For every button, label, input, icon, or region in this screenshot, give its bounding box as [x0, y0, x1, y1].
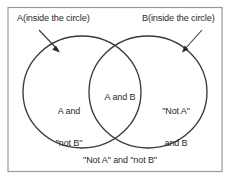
region-label-neither: "Not A" and "not B"	[55, 155, 185, 166]
set-a-callout-label: A(inside the circle)	[17, 13, 90, 24]
region-label-b-only-line2: and B	[150, 138, 202, 149]
set-b-callout-label: B(inside the circle)	[142, 13, 215, 24]
venn-diagram-canvas	[0, 0, 240, 180]
venn-diagram-figure: A(inside the circle) B(inside the circle…	[0, 0, 240, 180]
region-label-a-only-line2: "not B"	[40, 138, 98, 149]
region-label-b-only-line1: "Not A"	[150, 106, 202, 117]
region-label-intersection: A and B	[96, 92, 144, 103]
region-label-a-only-line1: A and	[40, 106, 98, 117]
